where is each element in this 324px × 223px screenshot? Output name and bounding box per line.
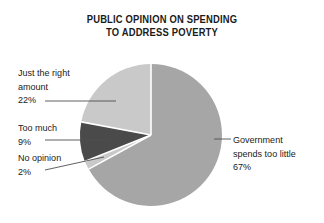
pie-chart-figure: PUBLIC OPINION ON SPENDING TO ADDRESS PO… [0,0,324,223]
slice-label-government-spends-too-little-line-1: Government [233,134,283,145]
slice-label-no-opinion-line-1: No opinion [18,152,61,163]
slice-value-government-spends-too-little: 67% [233,160,296,174]
pie-chart-graphic [0,0,324,223]
slice-value-too-much: 9% [18,135,57,149]
slice-label-just-the-right-amount-line-1: Just the right [18,67,70,78]
slice-value-just-the-right-amount: 22% [18,93,70,107]
slice-label-government-spends-too-little-line-2: spends too little [233,148,296,159]
slice-value-no-opinion: 2% [18,165,61,179]
slice-label-just-the-right-amount: Just the right amount 22% [18,66,70,107]
slice-label-no-opinion: No opinion 2% [18,151,61,178]
slice-label-too-much-line-1: Too much [18,122,57,133]
slice-label-too-much: Too much 9% [18,121,57,148]
slice-label-government-spends-too-little: Government spends too little 67% [233,133,296,174]
slice-label-just-the-right-amount-line-2: amount [18,81,48,92]
